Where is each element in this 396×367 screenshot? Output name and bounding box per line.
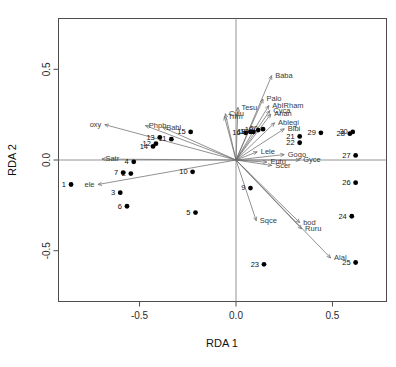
x-axis-title: RDA 1 [206,337,238,349]
site-point [169,137,174,142]
site-point [190,169,195,174]
rda-plot-canvas: -0.50.00.5 0.50.0-0.5 oxyPhphBablSatrele… [0,0,396,367]
site-point-label: 3 [111,188,115,197]
species-arrow-label: ele [85,180,95,189]
site-point-label: 20 [250,124,258,133]
site-point [131,159,136,164]
site-point [353,153,358,158]
species-arrow-label: Baba [275,71,293,80]
site-point-label: 25 [342,258,350,267]
site-point-label: 7 [114,168,118,177]
site-point-label: 15 [177,127,185,136]
site-point-label: 1 [62,180,66,189]
site-point-label: 26 [342,178,350,187]
species-arrow-label: Scer [275,161,291,170]
site-point [121,170,126,175]
site-point-label: 4 [125,157,129,166]
site-point [128,171,133,176]
species-arrow-label: Ruru [305,224,321,233]
x-tick-label: 0.5 [326,310,340,321]
species-arrow [98,160,236,184]
site-point-label: 27 [342,151,350,160]
species-arrow-label: oxy [90,120,102,129]
site-point-label: 14 [140,142,148,151]
site-point [319,130,324,135]
y-axis-ticks: 0.50.0-0.5 [41,62,58,259]
x-axis-ticks: -0.50.00.5 [131,302,340,321]
site-point-label: 22 [286,138,294,147]
site-point-label: 24 [338,212,346,221]
site-point [157,135,162,140]
site-point [349,214,354,219]
species-labels-layer: oxyPhphBablSatreleBabaPaloAbIRhamCycaAna… [85,71,347,262]
site-point [297,134,302,139]
x-tick-label: 0.0 [229,310,243,321]
rda-biplot-figure: -0.50.00.5 0.50.0-0.5 oxyPhphBablSatrele… [0,0,396,367]
site-point-label: 29 [308,128,316,137]
site-point [261,127,266,132]
species-arrow-label: Phph [149,121,167,130]
y-axis-title: RDA 2 [6,144,18,176]
site-point-label: 9 [241,183,245,192]
site-point [118,190,123,195]
site-point [353,180,358,185]
species-arrow-label: Sqce [260,216,277,225]
site-point [193,210,198,215]
site-point [151,144,156,149]
species-arrow-label: Satr [105,154,119,163]
x-tick-label: -0.5 [131,310,149,321]
site-point [353,260,358,265]
species-arrow [224,116,236,160]
species-arrow [236,160,331,258]
site-point [125,204,130,209]
site-point [248,186,253,191]
y-tick-label: -0.5 [41,242,52,260]
y-tick-label: 0.5 [41,62,52,76]
site-point [297,140,302,145]
site-point-label: 5 [186,208,190,217]
site-point-label: 30 [339,127,347,136]
species-arrow [236,160,256,221]
site-point [188,129,193,134]
site-point-label: 10 [179,167,187,176]
site-point [350,129,355,134]
species-arrow-label: Lele [261,147,275,156]
species-arrow-label: Trim [228,112,243,121]
site-point [69,182,74,187]
species-arrow [163,127,236,160]
species-arrow-label: Gyce [303,155,321,164]
site-point-label: 6 [118,202,122,211]
site-points-layer: 1234567910111213141516171819202122232425… [62,124,358,268]
site-point [262,262,267,267]
y-tick-label: 0.0 [41,153,52,167]
site-point-label: 13 [146,133,154,142]
site-point-label: 23 [251,260,259,269]
